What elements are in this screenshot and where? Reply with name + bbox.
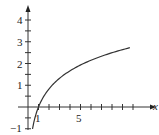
y-tick-label-3: 3 xyxy=(17,36,23,48)
y-tick-label-2: 2 xyxy=(17,58,23,70)
x-axis-label: x xyxy=(152,100,158,112)
y-tick-label-neg1: −1 xyxy=(10,122,22,134)
y-tick-label-1: 1 xyxy=(17,79,23,91)
x-tick-label-5: 5 xyxy=(76,112,82,124)
x-tick-label-1: 1 xyxy=(35,112,41,124)
y-tick-label-4: 4 xyxy=(17,14,23,26)
y-axis-arrow-icon xyxy=(26,5,31,12)
chart: x 1 5 4 3 2 1 −1 xyxy=(0,0,159,135)
